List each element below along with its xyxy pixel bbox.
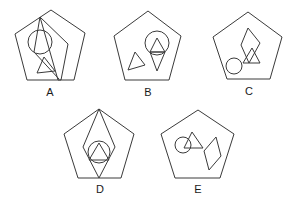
triangle-shape: [184, 132, 203, 148]
circle-shape: [28, 30, 52, 54]
small-triangle-shape: [128, 52, 145, 70]
option-label: A: [46, 86, 54, 98]
option-d[interactable]: D: [64, 109, 134, 195]
figure-canvas: A B C D E: [0, 0, 294, 207]
option-label: B: [144, 86, 151, 98]
pentagon-shape: [114, 11, 181, 80]
option-a[interactable]: A: [15, 10, 85, 98]
triangle-shape: [89, 143, 109, 160]
option-c[interactable]: C: [213, 12, 282, 97]
option-label: E: [194, 183, 201, 195]
quadrilateral-shape: [40, 17, 68, 80]
pentagon-shape: [161, 110, 234, 178]
option-label: D: [96, 183, 104, 195]
circle-shape: [145, 31, 169, 55]
quadrilateral-edge: [34, 52, 59, 79]
option-b[interactable]: B: [114, 11, 181, 98]
diamond-shape: [204, 137, 221, 170]
pentagon-shape: [213, 12, 282, 79]
quadrilateral-edge: [34, 17, 40, 52]
option-label: C: [245, 85, 253, 97]
option-e[interactable]: E: [161, 110, 234, 195]
triangle-shape: [150, 38, 165, 52]
circle-shape: [226, 58, 242, 74]
